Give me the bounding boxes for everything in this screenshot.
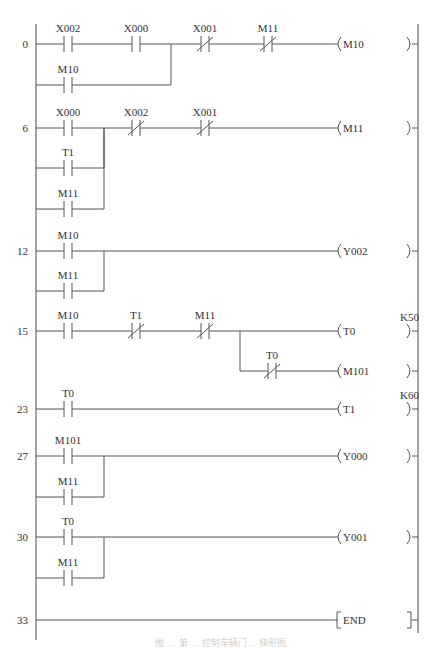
contact-label: M11: [58, 475, 78, 487]
rung-15: 15M10T1M11T0K50T0M101: [17, 309, 419, 379]
output-coil: M10: [338, 37, 418, 51]
coil-close-paren-icon: [407, 449, 410, 463]
rung-33: 33END: [17, 612, 418, 628]
no-contact: M11: [58, 475, 78, 505]
contact-label: T0: [62, 515, 75, 527]
contact-label: X001: [193, 106, 217, 118]
step-number: 0: [23, 38, 29, 50]
rung-27: 27M101Y000M11: [17, 434, 418, 505]
nc-contact: X001: [193, 22, 217, 52]
coil-open-paren-icon: [338, 244, 341, 258]
nc-contact: M11: [258, 22, 278, 52]
contact-label: M10: [58, 63, 79, 75]
step-number: 6: [23, 122, 29, 134]
no-contact: X000: [56, 106, 81, 136]
coil-open-paren-icon: [338, 530, 341, 544]
no-contact: X000: [124, 22, 149, 52]
step-number: 30: [17, 531, 29, 543]
output-coil: M11: [338, 121, 418, 135]
coil-open-paren-icon: [338, 364, 341, 378]
no-contact: T0: [62, 387, 75, 417]
timer-preset: K60: [400, 389, 419, 401]
coil-open-paren-icon: [338, 324, 341, 338]
coil-label: T1: [343, 403, 355, 415]
output-coil: T1K60: [338, 389, 419, 416]
contact-label: M11: [195, 309, 215, 321]
contact-label: M11: [58, 187, 78, 199]
coil-close-paren-icon: [407, 402, 410, 416]
coil-close-paren-icon: [407, 324, 410, 338]
end-instruction: END: [337, 612, 418, 628]
no-contact: T0: [62, 515, 75, 545]
step-number: 33: [17, 614, 29, 626]
parallel-branch: M11: [36, 128, 104, 217]
no-contact: M101: [55, 434, 81, 464]
coil-label: Y002: [343, 245, 367, 257]
contact-label: T0: [266, 349, 279, 361]
output-coil: Y001: [338, 530, 418, 544]
parallel-branch: M10: [36, 44, 171, 93]
no-contact: M11: [58, 269, 78, 299]
ladder-diagram: 0X002X000X001M11M10M106X000X002X001M11T1…: [0, 0, 441, 650]
coil-close-paren-icon: [407, 244, 410, 258]
no-contact: M11: [58, 187, 78, 217]
contact-label: X001: [193, 22, 217, 34]
parallel-branch: T1: [36, 128, 104, 176]
step-number: 12: [17, 245, 28, 257]
rung-12: 12M10Y002M11: [17, 229, 418, 299]
no-contact: M10: [58, 63, 79, 93]
contact-label: M11: [58, 269, 78, 281]
rung-0: 0X002X000X001M11M10M10: [23, 22, 419, 93]
contact-label: M11: [258, 22, 278, 34]
coil-close-paren-icon: [407, 530, 410, 544]
parallel-branch: M11: [36, 537, 104, 586]
no-contact: M10: [58, 229, 79, 259]
coil-close-paren-icon: [407, 364, 410, 378]
coil-label: M11: [343, 122, 363, 134]
step-number: 27: [17, 450, 29, 462]
contact-label: X002: [124, 106, 148, 118]
nc-contact: T1: [128, 309, 144, 339]
contact-label: T1: [62, 146, 74, 158]
nc-contact: M11: [195, 309, 215, 339]
contact-label: M101: [55, 434, 81, 446]
coil-close-paren-icon: [407, 37, 410, 51]
coil-label: Y001: [343, 531, 367, 543]
output-coil: Y002: [338, 244, 418, 258]
contact-label: X000: [56, 106, 81, 118]
no-contact: M11: [58, 556, 78, 586]
nc-contact: X001: [193, 106, 217, 136]
output-coil: Y000: [338, 449, 418, 463]
power-rails: [36, 24, 418, 640]
no-contact: T1: [62, 146, 74, 176]
coil-open-paren-icon: [338, 37, 341, 51]
coil-label: T0: [343, 325, 356, 337]
coil-open-paren-icon: [338, 121, 341, 135]
coil-label: M10: [343, 38, 364, 50]
coil-open-paren-icon: [338, 449, 341, 463]
parallel-branch: M11: [36, 251, 104, 299]
step-number: 15: [17, 325, 29, 337]
rung-6: 6X000X002X001M11T1M11: [23, 106, 419, 217]
step-number: 23: [17, 403, 29, 415]
contact-label: X000: [124, 22, 149, 34]
contact-label: T1: [130, 309, 142, 321]
contact-label: M11: [58, 556, 78, 568]
coil-label: END: [343, 614, 366, 626]
rungs: 0X002X000X001M11M10M106X000X002X001M11T1…: [17, 22, 419, 628]
nc-contact: X002: [124, 106, 148, 136]
nc-contact: T0: [264, 349, 280, 379]
rung-30: 30T0Y001M11: [17, 515, 418, 586]
rung-23: 23T0T1K60: [17, 387, 419, 417]
figure-caption: 图 … 第 … 控制车辆门… 梯形图: [0, 636, 441, 650]
parallel-branch: M11: [36, 456, 104, 505]
contact-label: M10: [58, 309, 79, 321]
coil-close-paren-icon: [407, 121, 410, 135]
output-coil: M101: [338, 364, 418, 378]
contact-label: M10: [58, 229, 79, 241]
coil-open-paren-icon: [338, 402, 341, 416]
contact-label: T0: [62, 387, 75, 399]
coil-label: Y000: [343, 450, 368, 462]
no-contact: X002: [56, 22, 80, 52]
no-contact: M10: [58, 309, 79, 339]
